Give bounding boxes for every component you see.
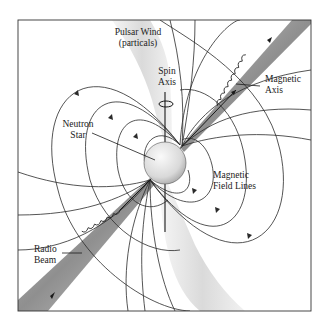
pulsar-wind-band-bottom [160, 184, 245, 311]
label-neutron-star: Neutron Star [60, 119, 96, 141]
label-magnetic-field-lines: Magnetic Field Lines [213, 170, 256, 192]
neutron-star [144, 142, 186, 184]
label-radio-beam: Radio Beam [34, 244, 57, 266]
label-magnetic-axis: Magnetic Axis [265, 74, 301, 96]
label-pulsar-wind: Pulsar Wind (particals) [108, 27, 168, 49]
label-spin-axis: Spin Axis [152, 66, 182, 88]
neutron-star-leader [92, 133, 155, 160]
